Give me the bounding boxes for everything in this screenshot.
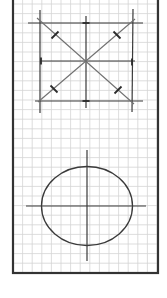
graph-paper-diagram	[0, 0, 167, 298]
diagram-canvas	[0, 0, 167, 298]
